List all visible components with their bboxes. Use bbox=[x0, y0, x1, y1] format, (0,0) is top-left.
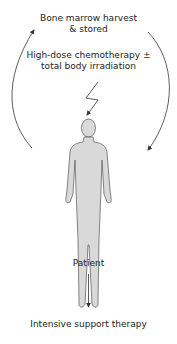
treatment-label-line1: High-dose chemotherapy ± bbox=[0, 50, 177, 61]
left-arc-arrow bbox=[12, 30, 34, 148]
treatment-label-line2: total body irradiation bbox=[0, 61, 177, 72]
lightning-bolt-icon bbox=[86, 82, 98, 115]
patient-label: Patient bbox=[0, 258, 177, 269]
harvest-label-line2: & stored bbox=[0, 24, 177, 35]
harvest-label: Bone marrow harvest & stored bbox=[0, 13, 177, 35]
harvest-label-line1: Bone marrow harvest bbox=[0, 13, 177, 24]
treatment-label: High-dose chemotherapy ± total body irra… bbox=[0, 50, 177, 72]
support-therapy-label: Intensive support therapy bbox=[0, 319, 177, 330]
